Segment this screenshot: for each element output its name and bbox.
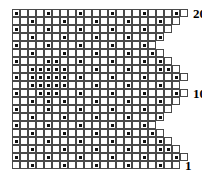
- chart-cell-marked: [108, 153, 116, 161]
- chart-cell-empty: [116, 97, 124, 105]
- chart-cell-marked: [92, 113, 100, 121]
- chart-cell-empty: [148, 161, 156, 169]
- chart-cell-empty: [108, 129, 116, 137]
- chart-cell-empty: [108, 113, 116, 121]
- chart-cell-empty: [124, 121, 132, 129]
- chart-cell-empty: [140, 33, 148, 41]
- chart-cell-empty: [20, 81, 28, 89]
- chart-cell-empty: [12, 49, 20, 57]
- chart-cell-empty: [28, 57, 36, 65]
- chart-cell-marked: [156, 33, 164, 41]
- chart-cell-marked: [76, 9, 84, 17]
- chart-cell-marked: [60, 81, 68, 89]
- chart-cell-empty: [132, 25, 140, 33]
- chart-cell-empty: [28, 89, 36, 97]
- chart-cell-empty: [116, 121, 124, 129]
- chart-cell-empty: [76, 145, 84, 153]
- chart-cell-empty: [92, 73, 100, 81]
- chart-cell-marked: [156, 81, 164, 89]
- chart-cell-empty: [100, 17, 108, 25]
- chart-cell-empty: [100, 57, 108, 65]
- chart-cell-empty: [148, 81, 156, 89]
- chart-cell-marked: [92, 129, 100, 137]
- chart-cell-empty: [20, 105, 28, 113]
- chart-cell-marked: [12, 89, 20, 97]
- chart-cell-empty: [52, 121, 60, 129]
- chart-cell-empty: [68, 137, 76, 145]
- chart-cell-empty: [132, 153, 140, 161]
- chart-cell-empty: [116, 81, 124, 89]
- chart-cell-empty: [132, 97, 140, 105]
- chart-cell-empty: [132, 105, 140, 113]
- chart-cell-marked: [140, 137, 148, 145]
- chart-cell-empty: [92, 41, 100, 49]
- chart-cell-empty: [148, 65, 156, 73]
- chart-cell-empty: [116, 153, 124, 161]
- chart-cell-empty: [76, 33, 84, 41]
- chart-cell-empty: [36, 161, 44, 169]
- chart-cell-marked: [108, 57, 116, 65]
- chart-cell-empty: [156, 153, 164, 161]
- chart-cell-marked: [124, 113, 132, 121]
- chart-cell-empty: [20, 9, 28, 17]
- chart-cell-marked: [28, 65, 36, 73]
- chart-cell-empty: [140, 145, 148, 153]
- chart-cell-marked: [172, 9, 180, 17]
- chart-cell-marked: [108, 41, 116, 49]
- chart-cell-empty: [20, 33, 28, 41]
- chart-cell-marked: [76, 41, 84, 49]
- chart-cell-empty: [100, 129, 108, 137]
- chart-cell-empty: [124, 105, 132, 113]
- chart-cell-marked: [108, 73, 116, 81]
- chart-cell-empty: [12, 65, 20, 73]
- chart-cell-empty: [36, 33, 44, 41]
- chart-cell-empty: [148, 153, 156, 161]
- chart-cell-empty: [92, 153, 100, 161]
- chart-cell-empty: [52, 97, 60, 105]
- chart-cell-marked: [92, 145, 100, 153]
- chart-cell-empty: [52, 153, 60, 161]
- chart-cell-empty: [52, 33, 60, 41]
- chart-cell-empty: [20, 137, 28, 145]
- chart-cell-empty: [28, 25, 36, 33]
- chart-cell-marked: [44, 105, 52, 113]
- chart-cell-marked: [28, 129, 36, 137]
- chart-cell-marked: [36, 81, 44, 89]
- chart-cell-empty: [164, 137, 172, 145]
- chart-cell-marked: [76, 121, 84, 129]
- chart-cell-empty: [20, 129, 28, 137]
- chart-cell-empty: [36, 145, 44, 153]
- chart-cell-marked: [60, 145, 68, 153]
- chart-cell-empty: [108, 81, 116, 89]
- chart-cell-empty: [68, 9, 76, 17]
- chart-cell-empty: [52, 49, 60, 57]
- chart-cell-empty: [100, 25, 108, 33]
- chart-cell-empty: [100, 81, 108, 89]
- chart-cell-empty: [92, 105, 100, 113]
- chart-cell-marked: [28, 17, 36, 25]
- chart-cell-marked: [12, 137, 20, 145]
- chart-cell-empty: [20, 121, 28, 129]
- chart-cell-empty: [60, 137, 68, 145]
- chart-cell-marked: [148, 49, 156, 57]
- chart-cell-empty: [172, 161, 180, 169]
- chart-cell-empty: [164, 57, 172, 65]
- chart-cell-empty: [156, 89, 164, 97]
- chart-cell-marked: [28, 145, 36, 153]
- chart-cell-empty: [20, 57, 28, 65]
- chart-cell-empty: [164, 25, 172, 33]
- chart-cell-empty: [108, 33, 116, 41]
- chart-cell-marked: [44, 73, 52, 81]
- chart-cell-empty: [76, 97, 84, 105]
- chart-cell-marked: [140, 57, 148, 65]
- chart-cell-empty: [52, 17, 60, 25]
- chart-cell-empty: [132, 41, 140, 49]
- chart-cell-empty: [132, 145, 140, 153]
- chart-cell-empty: [36, 97, 44, 105]
- chart-cell-empty: [108, 161, 116, 169]
- chart-cell-empty: [84, 89, 92, 97]
- chart-cell-marked: [140, 121, 148, 129]
- chart-cell-marked: [44, 9, 52, 17]
- chart-cell-marked: [44, 57, 52, 65]
- chart-cell-empty: [44, 145, 52, 153]
